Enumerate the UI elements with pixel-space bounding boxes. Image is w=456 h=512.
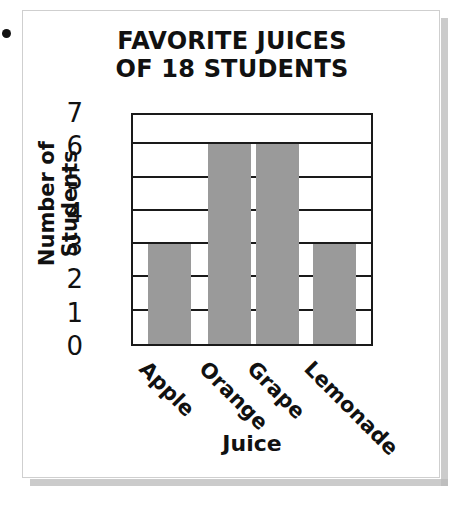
- bar-orange: [208, 144, 251, 344]
- bar-apple: [148, 244, 191, 344]
- x-tick-label-apple: Apple: [135, 358, 198, 421]
- y-tick-label-5: 5: [43, 167, 83, 193]
- y-tick-label-4: 4: [43, 200, 83, 226]
- worksheet-card: FAVORITE JUICES OF 18 STUDENTS Number of…: [22, 10, 440, 478]
- y-tick-label-0: 0: [43, 333, 83, 359]
- bar-lemonade: [313, 244, 356, 344]
- chart-title: FAVORITE JUICES OF 18 STUDENTS: [23, 27, 441, 84]
- y-tick-label-3: 3: [43, 233, 83, 259]
- chart-title-line-2: OF 18 STUDENTS: [23, 55, 441, 83]
- bullet-dot: [2, 29, 11, 38]
- gridline-5: [133, 176, 371, 178]
- plot-area: [131, 113, 373, 346]
- chart-title-line-1: FAVORITE JUICES: [23, 27, 441, 55]
- y-tick-label-7: 7: [43, 100, 83, 126]
- plot-inner: [133, 115, 371, 344]
- y-tick-label-1: 1: [43, 300, 83, 326]
- bar-grape: [256, 144, 299, 344]
- y-tick-label-6: 6: [43, 133, 83, 159]
- card-shadow-bottom: [30, 479, 448, 486]
- gridline-4: [133, 209, 371, 211]
- x-axis-title: Juice: [131, 431, 373, 456]
- gridline-6: [133, 142, 371, 144]
- y-tick-label-2: 2: [43, 266, 83, 292]
- card-shadow-right: [441, 18, 448, 486]
